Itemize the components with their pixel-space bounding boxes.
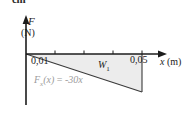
x-axis-label: x (m)	[160, 57, 181, 67]
work-area-label: W1	[98, 60, 110, 73]
x-tick-label-high: 0,05	[130, 55, 148, 65]
x-tick-label-low: 0,01	[31, 56, 49, 66]
equation-argument: (x)	[43, 74, 54, 85]
y-axis-symbol-label: F	[28, 16, 35, 27]
force-equation-label: Fx(x) = -30x	[34, 75, 83, 88]
y-axis-unit-label: (N)	[21, 28, 35, 38]
x-axis-symbol-label: x	[160, 56, 164, 67]
equation-operator: =	[57, 74, 63, 85]
x-axis-unit-label: (m)	[167, 56, 181, 67]
force-vs-position-figure: cm F (N) x (m) 0,01 0,05 W1 Fx(x) = -30x	[0, 0, 192, 113]
equation-rhs: -30x	[65, 74, 83, 85]
work-area-subscript: 1	[106, 65, 110, 73]
